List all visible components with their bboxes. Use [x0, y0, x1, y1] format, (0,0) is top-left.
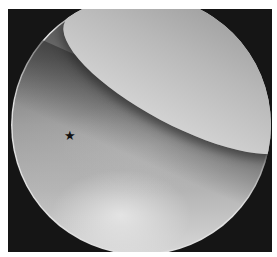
star-marker-icon: ★ [64, 129, 76, 142]
arthroscopic-view [11, 9, 271, 252]
image-frame [8, 9, 272, 252]
